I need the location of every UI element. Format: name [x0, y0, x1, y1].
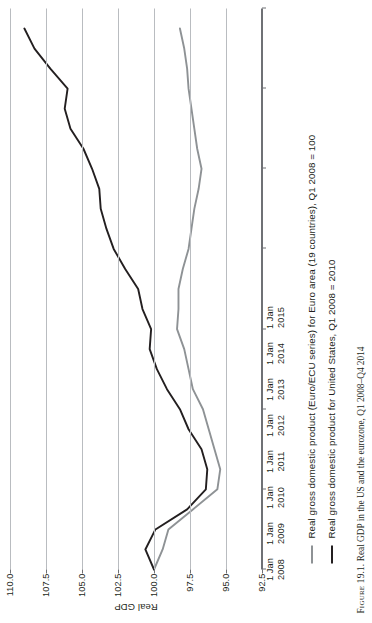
legend-swatch-icon — [311, 545, 313, 563]
y-gridline — [190, 8, 191, 569]
x-tick-mark — [262, 87, 266, 88]
y-tick-label: 100.0 — [149, 573, 159, 597]
y-gridline — [82, 8, 83, 569]
y-axis-title-text: Real GDP — [114, 602, 158, 613]
x-tick-label-line1: 1 Jan — [265, 342, 276, 365]
series-lines — [10, 8, 262, 569]
y-gridline — [118, 8, 119, 569]
x-tick-label-line2: 2008 — [276, 558, 287, 581]
y-tick-mark — [10, 569, 11, 573]
x-tick-label: 1 Jan2015 — [265, 306, 287, 329]
x-tick-label-line1: 1 Jan — [265, 306, 276, 329]
x-tick-label: 1 Jan2011 — [265, 450, 287, 473]
y-tick-mark — [118, 569, 119, 573]
series-line — [24, 28, 207, 569]
legend-item-euro-area[interactable]: Real gross domestic product (Euro/ECU se… — [306, 8, 317, 563]
y-axis-title: Real GDP — [10, 599, 262, 615]
plot-canvas — [10, 8, 262, 569]
y-tick-mark — [154, 569, 155, 573]
figure-number: Figure 19.1. — [356, 563, 366, 613]
y-tick-label: 97.5 — [185, 573, 195, 591]
y-gridline — [226, 8, 227, 569]
x-tick-label: 1 Jan2012 — [265, 414, 287, 437]
legend-swatch-icon — [331, 545, 333, 563]
x-tick-label-line1: 1 Jan — [265, 486, 276, 509]
x-tick-label-line1: 1 Jan — [265, 414, 276, 437]
figure-caption-text: Real GDP in the US and the eurozone, Q1 … — [356, 346, 366, 561]
y-tick-mark — [262, 569, 263, 573]
rotated-figure-host: Real GDP 92.595.097.5100.0102.5105.0107.… — [0, 0, 372, 623]
x-tick-label-line2: 2011 — [276, 450, 287, 473]
legend-item-label: Real gross domestic product (Euro/ECU se… — [306, 134, 317, 538]
x-tick-label-line1: 1 Jan — [265, 522, 276, 545]
y-gridline — [10, 8, 11, 569]
x-tick-label: 1 Jan2014 — [265, 342, 287, 365]
legend-item-label: Real gross domestic product for United S… — [326, 259, 337, 538]
x-axis-tick-labels: 1 Jan20081 Jan20091 Jan20101 Jan20111 Ja… — [262, 317, 296, 569]
x-tick-mark — [262, 247, 266, 248]
y-tick-mark — [82, 569, 83, 573]
x-tick-label: 1 Jan2010 — [265, 486, 287, 509]
figure-container: Real GDP 92.595.097.5100.0102.5105.0107.… — [0, 0, 372, 623]
y-axis-tick-labels: 92.595.097.5100.0102.5105.0107.5110.0 — [10, 569, 262, 599]
y-tick-label: 107.5 — [41, 573, 51, 597]
x-tick-label: 1 Jan2009 — [265, 522, 287, 545]
legend-item-united-states[interactable]: Real gross domestic product for United S… — [326, 8, 337, 563]
y-tick-label: 110.0 — [5, 573, 15, 596]
x-tick-label-line2: 2009 — [276, 522, 287, 545]
y-tick-mark — [226, 569, 227, 573]
x-tick-label: 1 Jan2013 — [265, 378, 287, 401]
series-line — [154, 28, 220, 569]
y-tick-label: 105.0 — [77, 573, 87, 597]
x-tick-label-line2: 2013 — [276, 378, 287, 401]
y-tick-mark — [190, 569, 191, 573]
y-tick-mark — [46, 569, 47, 573]
y-tick-label: 102.5 — [113, 573, 123, 597]
chart-legend: Real gross domestic product (Euro/ECU se… — [306, 8, 337, 563]
x-tick-label-line2: 2012 — [276, 414, 287, 437]
x-tick-label-line2: 2014 — [276, 342, 287, 365]
y-gridline — [154, 8, 155, 569]
x-tick-label-line1: 1 Jan — [265, 558, 276, 581]
y-gridline — [46, 8, 47, 569]
x-tick-mark — [262, 7, 266, 8]
y-tick-label: 95.0 — [221, 573, 231, 591]
x-tick-label-line2: 2015 — [276, 306, 287, 329]
figure-caption: Figure 19.1. Real GDP in the US and the … — [356, 8, 366, 615]
x-tick-label: 1 Jan2008 — [265, 558, 287, 581]
x-tick-label-line2: 2010 — [276, 486, 287, 509]
x-tick-mark — [262, 167, 266, 168]
plot-area: Real GDP 92.595.097.5100.0102.5105.0107.… — [10, 8, 262, 615]
x-tick-label-line1: 1 Jan — [265, 378, 276, 401]
x-tick-label-line1: 1 Jan — [265, 450, 276, 473]
